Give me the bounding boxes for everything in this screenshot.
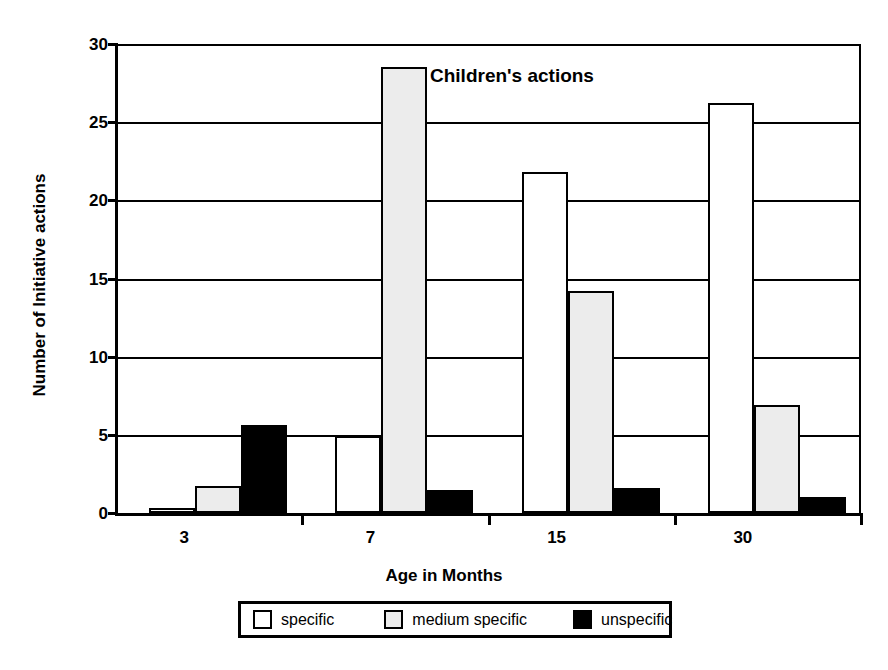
bar-medium-specific-7 xyxy=(381,67,427,513)
y-axis-title: Number of Initiative actions xyxy=(30,120,50,450)
bar-unspecific-3 xyxy=(241,425,287,513)
x-axis-tick-mark xyxy=(860,513,863,525)
legend-entry-unspecific[interactable]: unspecific xyxy=(573,604,672,635)
x-axis-tick-label-3: 3 xyxy=(154,528,214,548)
y-axis-tick-mark xyxy=(108,43,118,46)
x-axis-tick-mark xyxy=(301,513,304,525)
bar-chart-figure: Number of Initiative actions 05101520253… xyxy=(0,0,888,670)
y-axis-tick-label: 15 xyxy=(62,270,108,287)
legend-label: unspecific xyxy=(601,611,672,629)
bar-specific-30 xyxy=(708,103,754,513)
x-axis-title: Age in Months xyxy=(0,566,888,586)
y-axis-tick-label: 30 xyxy=(62,36,108,53)
bar-specific-3 xyxy=(149,508,195,513)
legend-swatch-icon xyxy=(573,610,592,629)
bar-medium-specific-3 xyxy=(195,486,241,513)
bar-unspecific-15 xyxy=(614,488,660,513)
legend-swatch-icon xyxy=(384,610,403,629)
x-axis-tick-label-30: 30 xyxy=(713,528,773,548)
y-axis-tick-mark xyxy=(108,278,118,281)
bar-medium-specific-15 xyxy=(568,291,614,513)
bar-unspecific-30 xyxy=(800,497,846,513)
bar-specific-15 xyxy=(522,172,568,513)
y-axis-tick-label: 10 xyxy=(62,348,108,365)
legend-label: medium specific xyxy=(412,611,527,629)
legend-swatch-icon xyxy=(253,610,272,629)
chart-title: Children's actions xyxy=(430,65,594,87)
bar-specific-7 xyxy=(335,436,381,513)
legend-entry-medium-specific[interactable]: medium specific xyxy=(384,604,527,635)
gridline xyxy=(115,44,860,46)
x-axis-tick-mark xyxy=(488,513,491,525)
bar-unspecific-7 xyxy=(427,490,473,513)
bar-medium-specific-30 xyxy=(754,405,800,513)
y-axis-tick-mark xyxy=(108,356,118,359)
y-axis-tick-mark xyxy=(108,512,118,515)
x-axis-tick-mark xyxy=(674,513,677,525)
x-axis-tick-label-7: 7 xyxy=(340,528,400,548)
y-axis-tick-mark xyxy=(108,199,118,202)
y-axis-tick-label: 20 xyxy=(62,192,108,209)
y-axis-tick-label: 5 xyxy=(62,426,108,443)
legend-entry-specific[interactable]: specific xyxy=(253,604,334,635)
y-axis-tick-mark xyxy=(108,121,118,124)
chart-legend: specificmedium specificunspecific xyxy=(238,601,672,638)
y-axis-tick-mark xyxy=(108,434,118,437)
x-axis-tick-label-15: 15 xyxy=(527,528,587,548)
plot-area xyxy=(115,44,860,513)
legend-label: specific xyxy=(281,611,334,629)
y-axis-tick-label: 25 xyxy=(62,114,108,131)
y-axis-tick-label: 0 xyxy=(62,505,108,522)
